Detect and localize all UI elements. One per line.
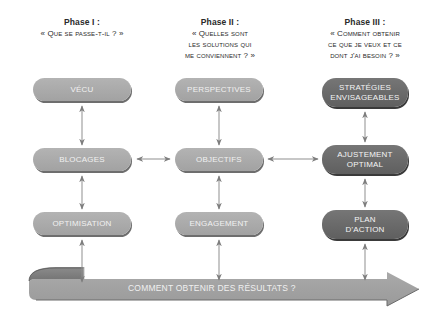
box-strategies-label-line-2: envisageables [330,93,399,103]
results-banner-label: Comment obtenir des résultats ? [128,283,328,293]
box-ajustement-label-line-1: Ajustement [337,150,392,160]
box-ajustement-label-line-2: optimal [337,160,392,170]
box-strategies-envisageables: Stratégies envisageables [322,78,408,107]
box-blocages: Blocages [33,148,131,171]
box-plan-label-line-1: Plan [345,215,384,225]
box-objectifs-label: Objectifs [196,155,242,165]
box-optimisation-label: Optimisation [52,219,111,229]
box-vecu: Vécu [33,78,131,101]
box-plan-action: Plan d'action [322,210,408,239]
box-perspectives: Perspectives [175,78,263,101]
box-plan-label-line-2: d'action [345,225,384,235]
box-engagement-label: Engagement [190,219,249,229]
box-strategies-label-line-1: Stratégies [330,83,399,93]
box-optimisation: Optimisation [33,212,131,235]
box-vecu-label: Vécu [70,85,93,95]
box-perspectives-label: Perspectives [187,85,251,95]
box-objectifs: Objectifs [175,148,263,171]
box-engagement: Engagement [175,212,263,235]
box-blocages-label: Blocages [59,155,105,165]
box-ajustement-optimal: Ajustement optimal [322,145,408,174]
